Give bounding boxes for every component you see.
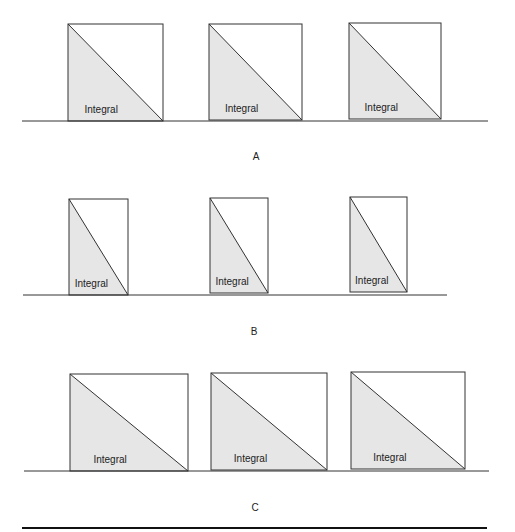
integral-label: Integral bbox=[225, 103, 258, 114]
panel-label-b: B bbox=[251, 326, 258, 337]
integral-label: Integral bbox=[93, 454, 126, 465]
integral-label: Integral bbox=[75, 278, 108, 289]
integral-label: Integral bbox=[215, 276, 248, 287]
panel-label-c: C bbox=[251, 502, 258, 513]
integral-label: Integral bbox=[355, 275, 388, 286]
panel-label-a: A bbox=[253, 151, 260, 162]
integral-label: Integral bbox=[85, 104, 118, 115]
integral-label: Integral bbox=[234, 453, 267, 464]
integral-label: Integral bbox=[365, 102, 398, 113]
integral-label: Integral bbox=[373, 452, 406, 463]
